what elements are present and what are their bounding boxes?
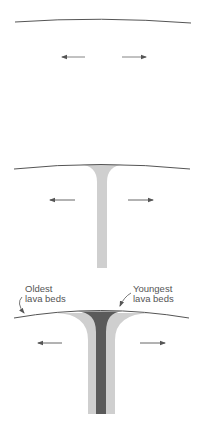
magma-conduit — [80, 165, 124, 268]
seafloor-spreading-diagram — [0, 0, 204, 428]
oldest-pointer — [19, 297, 24, 313]
oldest-label-line2: lava beds — [25, 294, 66, 304]
youngest-label: Youngest lava beds — [133, 284, 174, 304]
panel-stage-1 — [15, 19, 191, 57]
youngest-label-line2: lava beds — [133, 294, 174, 304]
youngest-pointer — [120, 293, 131, 306]
panel-stage-2 — [14, 165, 190, 269]
surface-line — [15, 19, 191, 23]
panel-stage-3 — [14, 293, 189, 414]
oldest-label: Oldest lava beds — [25, 284, 66, 304]
